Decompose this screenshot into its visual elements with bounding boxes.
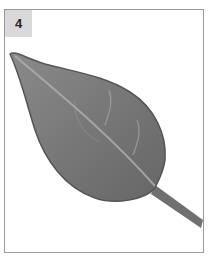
leaf-stem	[151, 185, 203, 228]
leaf-illustration	[5, 10, 205, 254]
picture-card: 4	[4, 9, 204, 253]
leaf-blade	[10, 53, 165, 201]
